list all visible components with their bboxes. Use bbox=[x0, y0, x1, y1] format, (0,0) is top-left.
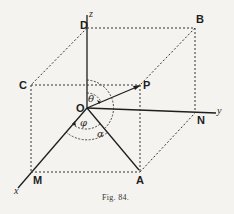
label-alpha: α bbox=[97, 129, 104, 139]
label-d: D bbox=[80, 20, 88, 31]
label-phi: φ bbox=[80, 118, 87, 128]
label-c: C bbox=[19, 80, 27, 91]
label-z-axis: z bbox=[89, 9, 93, 19]
edge-a-n bbox=[140, 113, 195, 172]
y-axis bbox=[87, 108, 216, 113]
edge-b-p bbox=[140, 28, 195, 85]
label-p: P bbox=[143, 80, 150, 91]
figure-caption: Fig. 84. bbox=[102, 193, 129, 202]
label-a: A bbox=[136, 175, 144, 186]
x-axis bbox=[18, 108, 87, 188]
label-b: B bbox=[196, 14, 204, 25]
oa-line bbox=[87, 108, 139, 170]
label-m: M bbox=[33, 175, 42, 186]
label-n: N bbox=[197, 115, 205, 126]
label-o: O bbox=[76, 103, 85, 114]
label-theta: θ bbox=[88, 94, 94, 104]
edge-d-c bbox=[31, 28, 87, 85]
label-x-axis: x bbox=[14, 186, 18, 196]
alpha-arc bbox=[87, 80, 114, 129]
figure-84: D B C P O N M A z y x θ φ α Fig. 84. bbox=[0, 0, 234, 214]
label-y-axis: y bbox=[217, 106, 221, 116]
